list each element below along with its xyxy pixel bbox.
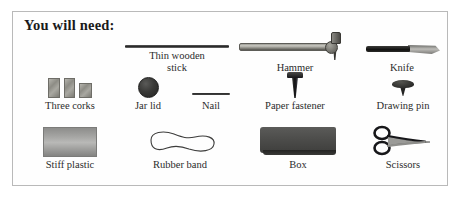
list-item-scissors: Scissors [356, 123, 450, 171]
hammer-icon [236, 32, 354, 60]
list-item-paper-fastener: Paper fastener [240, 72, 350, 112]
item-label-paper-fastener: Paper fastener [240, 100, 350, 112]
item-label-scissors: Scissors [356, 159, 450, 171]
page-title: You will need: [24, 17, 115, 34]
item-label-nail: Nail [178, 100, 244, 112]
stiff-plastic-icon [22, 125, 118, 157]
materials-list-figure: You will need: Thin wooden stick Hammer [0, 0, 462, 202]
list-item-knife: Knife [354, 32, 450, 74]
list-item-hammer: Hammer [236, 32, 354, 74]
wooden-stick-icon [118, 36, 236, 48]
list-item-stiff-plastic: Stiff plastic [22, 125, 118, 171]
list-item-box: Box [246, 123, 350, 171]
nail-icon [178, 76, 244, 98]
scissors-icon [356, 123, 450, 157]
list-item-nail: Nail [178, 76, 244, 112]
item-label-thin-wooden-stick: Thin wooden stick [118, 50, 236, 74]
list-item-thin-wooden-stick: Thin wooden stick [118, 36, 236, 74]
list-item-drawing-pin: Drawing pin [356, 72, 450, 112]
drawing-pin-icon [356, 72, 450, 98]
knife-icon [354, 32, 450, 60]
item-label-rubber-band: Rubber band [122, 159, 238, 171]
box-icon [246, 123, 350, 157]
list-item-rubber-band: Rubber band [122, 125, 238, 171]
item-label-jar-lid: Jar lid [112, 100, 184, 112]
paper-fastener-icon [240, 72, 350, 98]
item-label-stiff-plastic: Stiff plastic [22, 159, 118, 171]
item-label-three-corks: Three corks [22, 100, 118, 112]
rubber-band-icon [122, 125, 238, 157]
corks-icon [22, 76, 118, 98]
item-label-drawing-pin: Drawing pin [356, 100, 450, 112]
list-item-jar-lid: Jar lid [112, 76, 184, 112]
jar-lid-icon [112, 76, 184, 98]
list-item-three-corks: Three corks [22, 76, 118, 112]
item-label-box: Box [246, 159, 350, 171]
